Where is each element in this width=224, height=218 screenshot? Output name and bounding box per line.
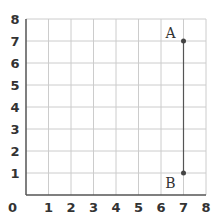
coordinate-grid: 01234567812345678 AB	[0, 0, 224, 218]
y-tick-label: 1	[10, 166, 19, 181]
y-tick-label: 5	[10, 78, 19, 93]
x-tick-label: 3	[89, 200, 98, 215]
x-tick-label: 6	[156, 200, 165, 215]
y-tick-label: 6	[10, 56, 19, 71]
x-tick-label: 5	[134, 200, 143, 215]
grid-lines	[26, 19, 206, 195]
y-tick-label: 7	[10, 34, 19, 49]
tick-labels: 01234567812345678	[8, 12, 211, 215]
x-tick-label: 1	[44, 200, 53, 215]
x-tick-label: 4	[111, 200, 120, 215]
point-a	[181, 39, 186, 44]
segments-and-points: AB	[164, 25, 186, 191]
point-label-a: A	[164, 25, 176, 41]
x-tick-label: 8	[201, 200, 210, 215]
point-label-b: B	[165, 175, 175, 191]
y-tick-label: 2	[10, 144, 19, 159]
y-tick-label: 3	[10, 122, 19, 137]
x-tick-label: 0	[8, 200, 17, 215]
point-b	[181, 171, 186, 176]
y-tick-label: 4	[10, 100, 19, 115]
x-tick-label: 2	[66, 200, 75, 215]
y-tick-label: 8	[10, 12, 19, 27]
x-tick-label: 7	[179, 200, 188, 215]
